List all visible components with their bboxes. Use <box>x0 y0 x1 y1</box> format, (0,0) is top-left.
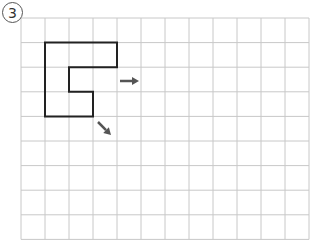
grid-worksheet: 3 <box>0 0 320 248</box>
grid-paper <box>0 0 320 248</box>
arrow-right-icon <box>120 77 139 85</box>
arrows <box>98 77 139 135</box>
problem-number-badge: 3 <box>2 2 23 23</box>
polyomino-shape <box>45 43 117 117</box>
arrow-down-right-icon <box>98 122 111 135</box>
problem-number: 3 <box>8 6 17 20</box>
grid-lines <box>21 18 309 239</box>
